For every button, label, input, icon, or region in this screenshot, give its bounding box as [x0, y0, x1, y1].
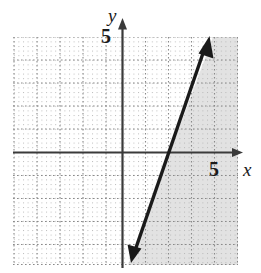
- x-axis-label: x: [243, 160, 251, 179]
- minor-grid: [13, 37, 238, 265]
- y-axis-arrowhead: [118, 18, 127, 30]
- y-axis-label: y: [108, 6, 116, 25]
- y-axis-tick-label-5: 5: [101, 26, 111, 46]
- x-axis-tick-label-5: 5: [209, 159, 219, 179]
- coordinate-plane: [0, 0, 261, 273]
- graph-figure: y x 5 5: [0, 0, 261, 273]
